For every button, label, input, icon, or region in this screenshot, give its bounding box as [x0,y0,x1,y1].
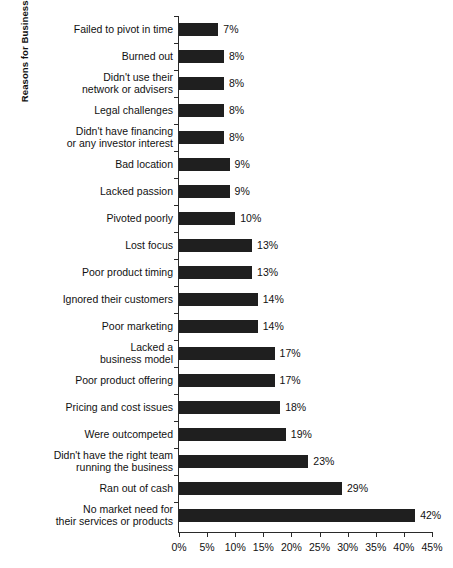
x-axis-tick [291,532,292,537]
bar-value-label: 17% [280,346,301,360]
category-label: Didn't have the right teamrunning the bu… [23,448,173,473]
category-label-line: or any investor interest [23,137,173,149]
category-label-line: Were outcompeted [23,428,173,440]
x-axis-tick-label: 45% [412,540,452,554]
x-axis-tick [348,532,349,537]
category-label: Poor product timing [23,259,173,278]
x-axis-tick [207,532,208,537]
category-label: Pricing and cost issues [23,394,173,413]
bar-value-label: 7% [223,22,238,36]
category-label-line: running the business [23,461,173,473]
bar [179,239,252,252]
category-label: Failed to pivot in time [23,16,173,35]
category-label: No market need fortheir services or prod… [23,502,173,527]
bar [179,320,258,333]
y-axis-tick [174,16,179,17]
category-label-line: Lacked passion [23,185,173,197]
bar [179,77,224,90]
bar [179,509,415,522]
bar [179,158,230,171]
bar-row: Poor product offering17% [179,367,432,394]
bar-row: Were outcompeted19% [179,421,432,448]
bar-row: Poor marketing14% [179,313,432,340]
bar [179,212,235,225]
bar-row: Lost focus13% [179,232,432,259]
x-axis-tick [376,532,377,537]
bar-value-label: 10% [240,211,261,225]
y-axis-tick [174,448,179,449]
category-label: Burned out [23,43,173,62]
bar-value-label: 13% [257,238,278,252]
category-label-line: their services or products [23,515,173,527]
x-axis-tick [235,532,236,537]
y-axis-tick [174,205,179,206]
y-axis-tick [174,259,179,260]
y-axis-tick [174,367,179,368]
bar [179,185,230,198]
y-axis-tick [174,475,179,476]
bar [179,131,224,144]
bar-row: Legal challenges8% [179,97,432,124]
y-axis-tick [174,421,179,422]
bar [179,104,224,117]
bar-row: No market need fortheir services or prod… [179,502,432,529]
bar-value-label: 8% [229,76,244,90]
bar-row: Ran out of cash29% [179,475,432,502]
bar-value-label: 8% [229,130,244,144]
category-label-line: Didn't have financing [23,125,173,137]
bar-value-label: 19% [291,427,312,441]
y-axis-tick [174,124,179,125]
bar [179,374,275,387]
bar [179,23,218,36]
y-axis-tick [174,70,179,71]
bar-row: Pricing and cost issues18% [179,394,432,421]
x-axis-tick [320,532,321,537]
category-label: Pivoted poorly [23,205,173,224]
category-label: Poor marketing [23,313,173,332]
category-label: Ignored their customers [23,286,173,305]
category-label-line: Lacked a [23,341,173,353]
bar [179,482,342,495]
bar [179,455,308,468]
bar-value-label: 13% [257,265,278,279]
x-axis-tick [432,532,433,537]
bar-row: Bad location9% [179,151,432,178]
bar [179,293,258,306]
bar [179,50,224,63]
category-label-line: Lost focus [23,239,173,251]
bar [179,401,280,414]
category-label: Ran out of cash [23,475,173,494]
bar-row: Didn't have the right teamrunning the bu… [179,448,432,475]
category-label: Didn't use theirnetwork or advisers [23,70,173,95]
category-label-line: Legal challenges [23,104,173,116]
category-label: Poor product offering [23,367,173,386]
category-label-line: business model [23,353,173,365]
bar-row: Didn't use theirnetwork or advisers8% [179,70,432,97]
bar-value-label: 8% [229,49,244,63]
y-axis-tick [174,43,179,44]
category-label-line: Pivoted poorly [23,212,173,224]
category-label-line: No market need for [23,503,173,515]
bar [179,266,252,279]
category-label-line: Pricing and cost issues [23,401,173,413]
y-axis-tick [174,340,179,341]
category-label-line: Poor product offering [23,374,173,386]
y-axis-tick [174,313,179,314]
bar-row: Burned out8% [179,43,432,70]
category-label: Lost focus [23,232,173,251]
category-label-line: Bad location [23,158,173,170]
y-axis-tick [174,502,179,503]
x-axis-tick [179,532,180,537]
y-axis-tick [174,394,179,395]
category-label-line: Didn't have the right team [23,449,173,461]
y-axis-tick [174,286,179,287]
bar-value-label: 9% [235,157,250,171]
category-label: Were outcompeted [23,421,173,440]
category-label-line: network or advisers [23,83,173,95]
plot-area: Failed to pivot in time7%Burned out8%Did… [179,16,432,532]
bar-value-label: 14% [263,292,284,306]
bar-value-label: 8% [229,103,244,117]
category-label-line: Burned out [23,50,173,62]
y-axis-tick [174,97,179,98]
bar [179,428,286,441]
